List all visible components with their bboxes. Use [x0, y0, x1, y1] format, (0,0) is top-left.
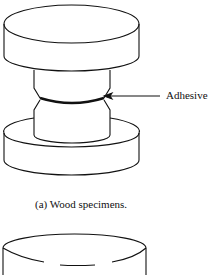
adhesive-layer: [40, 98, 104, 103]
lower-neck: [34, 100, 110, 143]
second-specimen-disc: [3, 234, 146, 275]
bottom-disc: [4, 118, 140, 175]
top-disc: [4, 5, 139, 71]
upper-neck: [34, 70, 110, 98]
specimen-diagram: [0, 0, 215, 275]
adhesive-arrow: [104, 93, 160, 99]
figure-caption: (a) Wood specimens.: [35, 198, 127, 210]
adhesive-label: Adhesive: [166, 89, 208, 101]
